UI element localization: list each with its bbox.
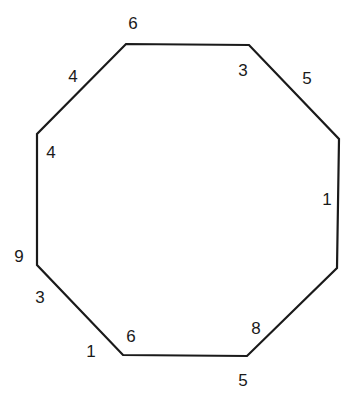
label-left-upper-vertex: 4 <box>46 143 55 162</box>
label-lower-left-edge: 3 <box>35 288 44 307</box>
label-left-lower-vertex: 9 <box>14 247 23 266</box>
label-top-left-vertex: 6 <box>128 14 137 33</box>
label-bottom-left-below: 1 <box>86 342 95 361</box>
label-upper-right-edge: 5 <box>302 69 311 88</box>
label-bottom-right-below: 5 <box>238 371 247 390</box>
number-labels: 6 3 5 1 8 5 6 1 3 9 4 4 <box>14 14 331 390</box>
label-top-right-vertex: 3 <box>238 61 247 80</box>
label-upper-left-edge: 4 <box>68 67 77 86</box>
label-right-edge: 1 <box>322 190 331 209</box>
octagon-diagram: 6 3 5 1 8 5 6 1 3 9 4 4 <box>0 0 356 401</box>
octagon-outline <box>37 44 339 356</box>
label-bottom-left-vertex: 6 <box>126 327 135 346</box>
label-bottom-right-vertex: 8 <box>251 319 260 338</box>
